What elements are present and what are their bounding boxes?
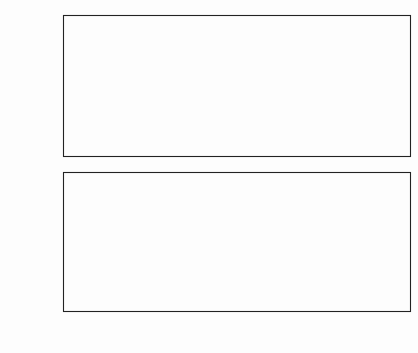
chart-svg xyxy=(0,0,418,353)
top-panel-frame xyxy=(64,16,411,157)
figure-container xyxy=(0,0,418,353)
bottom-panel-frame xyxy=(64,173,411,312)
top-panel xyxy=(64,16,411,157)
bottom-panel xyxy=(64,173,411,312)
